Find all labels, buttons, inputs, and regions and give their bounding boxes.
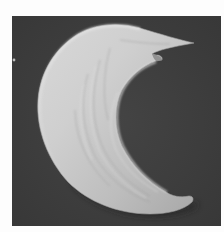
speck (13, 59, 16, 62)
image-canvas (0, 0, 224, 232)
micrograph-image (12, 16, 221, 226)
micrograph-frame (12, 16, 221, 226)
